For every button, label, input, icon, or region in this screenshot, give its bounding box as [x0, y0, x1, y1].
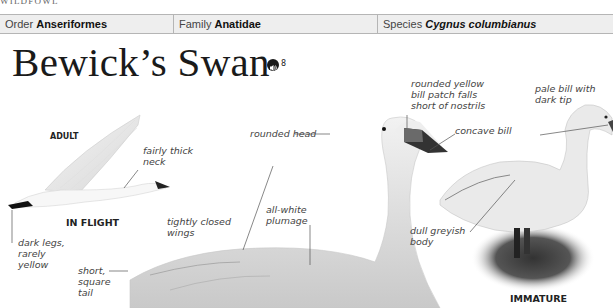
- label-dark-legs: dark legs, rarely yellow: [18, 237, 65, 270]
- label-rounded-head: rounded head: [250, 128, 316, 139]
- caption-immature: IMMATURE: [510, 293, 567, 304]
- label-all-white-plumage: all-white plumage: [266, 204, 308, 226]
- swan-illustrations: [0, 0, 613, 308]
- label-short-square-tail: short, square tail: [78, 265, 111, 298]
- caption-in-flight: IN FLIGHT: [66, 217, 119, 228]
- label-fairly-thick-neck: fairly thick neck: [143, 145, 193, 167]
- caption-adult: ADULT: [50, 132, 79, 141]
- label-dull-greyish-body: dull greyish body: [410, 225, 465, 247]
- label-tightly-closed-wings: tightly closed wings: [167, 216, 231, 238]
- label-pale-bill: pale bill with dark tip: [535, 83, 595, 105]
- label-concave-bill: concave bill: [455, 125, 512, 136]
- label-bill-patch: rounded yellow bill patch falls short of…: [411, 78, 485, 111]
